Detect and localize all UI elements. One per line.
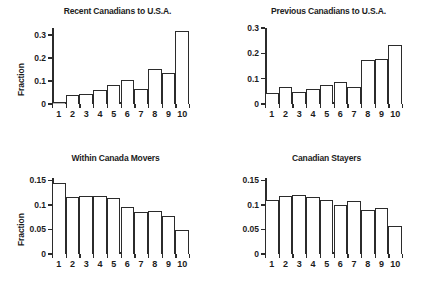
histogram-bar: [292, 195, 306, 254]
x-axis-tick-label: 10: [177, 109, 187, 119]
histogram-bar: [375, 59, 389, 104]
histogram-bar: [320, 200, 334, 254]
plot-area: 00.050.10.1512345678910: [265, 178, 402, 254]
plot-area: 00.10.20.312345678910: [52, 28, 189, 104]
x-axis-tick: [279, 254, 280, 258]
y-axis-tick-label: 0.2: [247, 48, 259, 58]
y-axis-tick-label: 0: [41, 249, 46, 259]
plot-area: 00.050.10.1512345678910: [52, 178, 189, 254]
x-axis-tick-label: 3: [297, 109, 302, 119]
x-axis-tick: [148, 254, 149, 258]
x-axis-tick-label: 5: [324, 259, 329, 269]
x-axis-tick-label: 9: [379, 109, 384, 119]
x-axis-tick: [189, 104, 190, 108]
x-axis-tick: [402, 254, 403, 258]
x-axis-tick-label: 2: [70, 259, 75, 269]
x-axis-tick-label: 2: [70, 109, 75, 119]
y-axis-tick-label: 0.3: [247, 23, 259, 33]
x-axis-tick: [134, 254, 135, 258]
x-axis-tick: [320, 254, 321, 258]
y-axis-tick: [261, 53, 265, 54]
figure-panel-grid: Recent Canadians to U.S.A. Fraction 00.1…: [0, 0, 434, 294]
histogram-bar: [79, 196, 93, 254]
x-axis-tick: [107, 104, 108, 108]
y-axis-label: Fraction: [16, 63, 26, 96]
x-axis-tick: [375, 254, 376, 258]
histogram-bar: [175, 31, 189, 104]
x-axis-tick: [189, 254, 190, 258]
chart-title: Previous Canadians to U.S.A.: [217, 6, 434, 16]
histogram-bar: [66, 197, 80, 254]
histogram-bar: [388, 226, 402, 254]
x-axis-tick: [361, 104, 362, 108]
y-axis-tick: [48, 180, 52, 181]
x-axis-tick: [265, 104, 266, 108]
histogram-bar: [52, 102, 66, 104]
y-axis-tick-label: 0: [254, 249, 259, 259]
y-axis-tick: [261, 27, 265, 28]
x-axis-tick-label: 10: [390, 259, 400, 269]
x-axis-tick-label: 3: [297, 259, 302, 269]
histogram-bar: [279, 196, 293, 254]
x-axis-tick: [402, 104, 403, 108]
x-axis-tick: [93, 104, 94, 108]
histogram-bar: [107, 85, 121, 104]
x-axis-tick-label: 4: [310, 109, 315, 119]
x-axis-tick: [306, 104, 307, 108]
chart-panel-recent-canadians: Recent Canadians to U.S.A. Fraction 00.1…: [0, 0, 217, 147]
chart-title: Within Canada Movers: [0, 153, 217, 163]
histogram-bar: [265, 93, 279, 104]
x-axis-tick: [388, 254, 389, 258]
chart-panel-canadian-stayers: Canadian Stayers 00.050.10.1512345678910: [217, 147, 434, 294]
histogram-bar: [306, 89, 320, 104]
y-axis-tick: [48, 57, 52, 58]
histogram-bar: [148, 69, 162, 104]
histogram-bar: [320, 85, 334, 104]
x-axis-tick-label: 10: [390, 109, 400, 119]
y-axis-tick: [48, 80, 52, 81]
x-axis-tick: [134, 104, 135, 108]
x-axis-tick-label: 1: [269, 259, 274, 269]
x-axis-tick: [334, 254, 335, 258]
x-axis-tick: [347, 254, 348, 258]
y-axis-tick-label: 0.1: [34, 200, 46, 210]
histogram-bar: [361, 60, 375, 104]
histogram-bar: [107, 198, 121, 254]
y-axis-tick-label: 0.05: [29, 224, 46, 234]
histogram-bar: [334, 205, 348, 254]
histogram-bar: [306, 197, 320, 254]
histogram-bar: [134, 212, 148, 254]
x-axis-tick: [121, 104, 122, 108]
x-axis-tick-label: 2: [283, 109, 288, 119]
y-axis-tick: [48, 34, 52, 35]
histogram-bar: [388, 45, 402, 104]
chart-title: Canadian Stayers: [217, 153, 434, 163]
histogram-bar: [334, 82, 348, 104]
x-axis-tick-label: 4: [97, 109, 102, 119]
x-axis-tick-label: 2: [283, 259, 288, 269]
x-axis-tick: [279, 104, 280, 108]
y-axis-tick-label: 0.1: [247, 200, 259, 210]
x-axis-tick-label: 6: [125, 259, 130, 269]
histogram-bar: [162, 73, 176, 104]
histogram-bar: [66, 95, 80, 104]
x-axis-tick: [162, 104, 163, 108]
y-axis-line: [52, 28, 54, 104]
plot-area: 00.10.20.312345678910: [265, 28, 402, 104]
x-axis-tick-label: 1: [269, 109, 274, 119]
histogram-bar: [93, 90, 107, 104]
x-axis-tick-label: 8: [365, 109, 370, 119]
histogram-bar: [93, 196, 107, 254]
x-axis-tick: [79, 254, 80, 258]
x-axis-tick: [79, 104, 80, 108]
histogram-bar: [292, 92, 306, 104]
histogram-bar: [361, 210, 375, 254]
x-axis-tick: [375, 104, 376, 108]
x-axis-tick: [162, 254, 163, 258]
x-axis-tick: [306, 254, 307, 258]
x-axis-tick: [148, 104, 149, 108]
x-axis-tick-label: 6: [338, 109, 343, 119]
histogram-bar: [121, 207, 135, 254]
y-axis-tick-label: 0.15: [29, 175, 46, 185]
chart-panel-previous-canadians: Previous Canadians to U.S.A. 00.10.20.31…: [217, 0, 434, 147]
